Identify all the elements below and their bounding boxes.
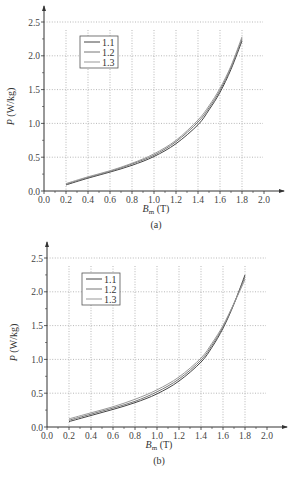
y-tick-label: 0.0 [31,423,43,433]
x-tick-label: 0.8 [126,195,138,205]
x-tick-label: 0.6 [104,195,116,205]
x-tick-label: 0.0 [38,195,50,205]
y-axis-label-symbol: P [8,355,19,362]
y-tick-label: 1.5 [28,85,40,95]
x-tick-label: 0.6 [107,431,119,441]
y-tick-label: 2.0 [28,51,40,61]
x-tick-label: 0.4 [85,431,97,441]
y-tick-label: 2.5 [28,18,40,28]
x-tick-label: 0.2 [60,195,72,205]
y-axis-arrow [45,241,49,247]
x-tick-label: 1.6 [217,431,229,441]
y-axis-label: P (W/kg) [5,88,17,127]
chart-caption: (a) [150,219,161,231]
x-tick-label: 2.0 [261,431,273,441]
chart-a: 0.00.20.40.60.81.01.21.41.61.82.00.00.51… [5,5,285,231]
axes [42,5,285,193]
y-axis-label: P (W/kg) [8,324,20,363]
x-tick-label: 1.4 [195,431,207,441]
x-axis-label-unit: (T) [157,439,172,451]
y-tick-label: 1.0 [28,119,40,129]
x-tick-label: 0.4 [82,195,94,205]
grid [47,258,266,427]
y-axis-label-unit: (W/kg) [8,324,20,355]
y-tick-label: 0.0 [28,187,40,197]
y-tick-label: 0.5 [31,389,43,399]
y-tick-label: 2.5 [31,254,43,264]
legend: 1.11.21.3 [82,273,120,305]
x-tick-label: 1.8 [236,195,248,205]
ticks: 0.00.20.40.60.81.01.21.41.61.82.00.00.51… [31,254,273,442]
legend-label: 1.3 [104,294,117,305]
x-axis-label-unit: (T) [154,203,169,215]
figure: 0.00.20.40.60.81.01.21.41.61.82.00.00.51… [0,0,291,478]
x-axis-arrow [279,189,285,193]
x-tick-label: 1.8 [239,431,251,441]
x-tick-label: 0.2 [63,431,75,441]
y-tick-label: 0.5 [28,153,40,163]
y-tick-label: 1.0 [31,355,43,365]
axes [45,241,288,429]
chart-caption: (b) [153,455,165,467]
ticks: 0.00.20.40.60.81.01.21.41.61.82.00.00.51… [28,18,270,206]
x-axis-label: Bm (T) [143,203,170,216]
legend: 1.11.21.3 [80,36,118,68]
x-axis-label: Bm (T) [146,439,173,452]
y-axis-label-symbol: P [5,119,16,126]
grid [44,22,263,191]
y-tick-label: 2.0 [31,287,43,297]
chart-b: 0.00.20.40.60.81.01.21.41.61.82.00.00.51… [8,241,288,467]
x-tick-label: 1.6 [214,195,226,205]
x-tick-label: 0.0 [41,431,53,441]
x-tick-label: 0.8 [129,431,141,441]
y-axis-arrow [42,5,46,11]
x-tick-label: 1.2 [170,195,182,205]
x-tick-label: 1.2 [173,431,185,441]
x-tick-label: 1.4 [192,195,204,205]
y-axis-label-unit: (W/kg) [5,88,17,119]
x-axis-arrow [282,425,288,429]
x-tick-label: 2.0 [258,195,270,205]
y-tick-label: 1.5 [31,321,43,331]
legend-label: 1.3 [102,57,115,68]
